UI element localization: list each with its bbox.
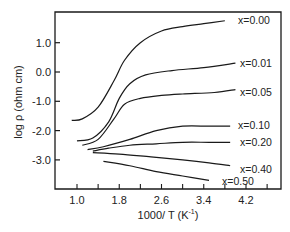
y-axis: 1.00.0-1.0-2.0-3.0 xyxy=(32,37,60,166)
resistivity-chart: 1.00.0-1.0-2.0-3.0 1.01.82.63.44.2 x=0.0… xyxy=(0,0,290,232)
series-curves xyxy=(72,21,236,181)
x-tick-label: 1.8 xyxy=(112,194,127,206)
x-axis-title: 1000/ T (K-1) xyxy=(138,208,199,221)
x-tick-label: 4.2 xyxy=(238,194,253,206)
series-label: x=0.10 xyxy=(238,119,270,131)
x-tick-label: 1.0 xyxy=(69,194,84,206)
x-tick-label: 3.4 xyxy=(196,194,211,206)
x-axis: 1.01.82.63.44.2 xyxy=(69,184,267,206)
series-label: x=0.05 xyxy=(240,86,272,98)
series-line xyxy=(103,161,209,180)
y-tick-label: 0.0 xyxy=(36,66,51,78)
series-label: x=0.40 xyxy=(240,163,272,175)
series-line xyxy=(93,153,230,166)
series-line xyxy=(88,126,231,150)
series-line xyxy=(72,21,225,121)
series-line xyxy=(82,90,235,146)
series-line xyxy=(77,63,235,141)
y-tick-label: -1.0 xyxy=(32,95,51,107)
y-tick-label: 1.0 xyxy=(36,37,51,49)
x-tick-label: 2.6 xyxy=(154,194,169,206)
series-label: x=0.20 xyxy=(240,136,272,148)
series-label: x=0.00 xyxy=(238,14,270,26)
y-axis-title: log ρ (ohm cm) xyxy=(12,65,24,139)
series-label: x=0.50 xyxy=(222,175,254,187)
y-tick-label: -2.0 xyxy=(32,125,51,137)
series-label: x=0.01 xyxy=(240,57,272,69)
series-labels: x=0.00x=0.01x=0.05x=0.10x=0.20x=0.40x=0.… xyxy=(222,14,272,187)
y-tick-label: -3.0 xyxy=(32,154,51,166)
